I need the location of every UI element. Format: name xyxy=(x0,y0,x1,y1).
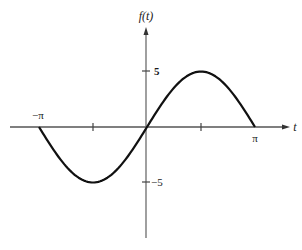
y-axis-arrow-icon xyxy=(144,27,149,35)
chart-canvas: f(t) t −π π 5 −5 xyxy=(0,0,302,250)
y-tick-label-neg5: −5 xyxy=(151,176,163,188)
x-tick-label-neg-pi: −π xyxy=(32,109,44,121)
x-axis-arrow-icon xyxy=(282,125,290,130)
y-tick-label-5: 5 xyxy=(154,65,160,77)
y-axis-label: f(t) xyxy=(139,9,154,23)
x-tick-label-pi: π xyxy=(252,132,258,144)
x-axis-label: t xyxy=(293,120,297,134)
